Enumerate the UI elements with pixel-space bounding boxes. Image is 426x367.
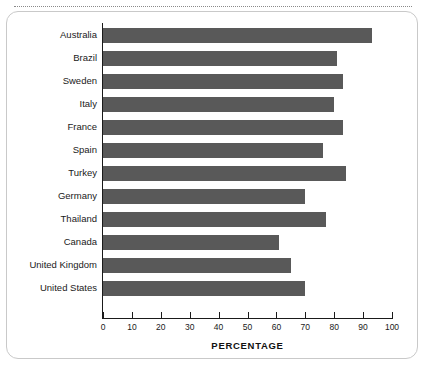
bar-category-label: United States: [0, 282, 97, 293]
bar-row: Thailand: [7, 210, 419, 233]
bar-row: Canada: [7, 233, 419, 256]
x-tick-mark: [334, 312, 335, 319]
bar-category-label: United Kingdom: [0, 259, 97, 270]
bar: [103, 189, 305, 204]
x-tick-label: 50: [233, 322, 263, 332]
bar-category-label: Canada: [0, 236, 97, 247]
bar-row: Spain: [7, 141, 419, 164]
bar: [103, 235, 279, 250]
x-tick-label: 70: [290, 322, 320, 332]
x-tick-mark: [276, 312, 277, 319]
x-tick-label: 10: [117, 322, 147, 332]
bar: [103, 281, 305, 296]
bar-category-label: Italy: [0, 98, 97, 109]
x-tick-mark: [132, 312, 133, 319]
x-tick-label: 40: [204, 322, 234, 332]
bar-category-label: Turkey: [0, 167, 97, 178]
x-tick-label: 30: [175, 322, 205, 332]
x-tick-mark: [392, 312, 393, 319]
bar: [103, 97, 334, 112]
bar-row: France: [7, 118, 419, 141]
x-tick-mark: [161, 312, 162, 319]
chart-page: AustraliaBrazilSwedenItalyFranceSpainTur…: [0, 0, 426, 367]
bar: [103, 74, 343, 89]
x-tick-mark: [190, 312, 191, 319]
x-axis-ticks: 0102030405060708090100: [7, 312, 419, 342]
x-tick-label: 90: [348, 322, 378, 332]
x-tick-label: 100: [377, 322, 407, 332]
dotted-divider: [14, 6, 412, 7]
bar-category-label: Spain: [0, 144, 97, 155]
bar-row: Italy: [7, 95, 419, 118]
bar-row: Sweden: [7, 72, 419, 95]
bar: [103, 28, 372, 43]
bar: [103, 166, 346, 181]
bar: [103, 212, 326, 227]
bar-category-label: Thailand: [0, 213, 97, 224]
bar-row: United Kingdom: [7, 256, 419, 279]
bar-category-label: Brazil: [0, 52, 97, 63]
bar-category-label: France: [0, 121, 97, 132]
bar: [103, 120, 343, 135]
bar-row: United States: [7, 279, 419, 302]
x-tick-mark: [305, 312, 306, 319]
bar-row: Germany: [7, 187, 419, 210]
x-tick-mark: [219, 312, 220, 319]
chart-card: AustraliaBrazilSwedenItalyFranceSpainTur…: [6, 11, 418, 359]
bar: [103, 258, 291, 273]
bar-category-label: Sweden: [0, 75, 97, 86]
x-tick-mark: [103, 312, 104, 319]
bar: [103, 143, 323, 158]
bar-row: Brazil: [7, 49, 419, 72]
x-tick-mark: [363, 312, 364, 319]
bar: [103, 51, 337, 66]
bar-category-label: Germany: [0, 190, 97, 201]
bar-rows: AustraliaBrazilSwedenItalyFranceSpainTur…: [7, 26, 419, 302]
x-tick-label: 80: [319, 322, 349, 332]
x-axis-title: PERCENTAGE: [102, 340, 393, 351]
bar-row: Turkey: [7, 164, 419, 187]
bar-chart: AustraliaBrazilSwedenItalyFranceSpainTur…: [7, 12, 419, 360]
x-tick-label: 20: [146, 322, 176, 332]
x-tick-label: 0: [88, 322, 118, 332]
x-tick-label: 60: [261, 322, 291, 332]
bar-row: Australia: [7, 26, 419, 49]
bar-category-label: Australia: [0, 29, 97, 40]
x-tick-mark: [248, 312, 249, 319]
